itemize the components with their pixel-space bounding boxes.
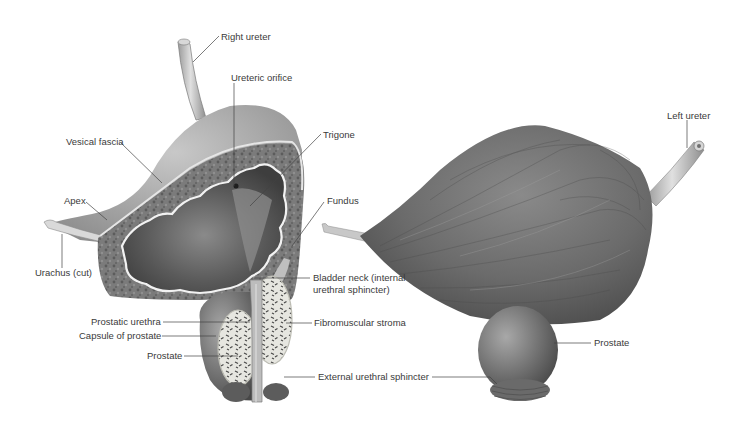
label-right-ureter: Right ureter	[221, 31, 271, 43]
label-left-ureter: Left ureter	[667, 110, 710, 122]
label-external-urethral-sphincter: External urethral sphincter	[318, 371, 429, 383]
label-prostate-external: Prostate	[594, 337, 629, 349]
label-prostatic-urethra: Prostatic urethra	[91, 316, 161, 328]
sagittal-section	[44, 39, 304, 402]
label-fundus: Fundus	[327, 195, 359, 207]
anatomy-figure: Right ureter Ureteric orifice Vesical fa…	[0, 0, 747, 424]
label-urachus: Urachus (cut)	[35, 267, 92, 279]
external-view	[322, 125, 704, 401]
label-capsule-of-prostate: Capsule of prostate	[79, 330, 161, 342]
bladder-illustration	[0, 0, 747, 424]
label-bladder-neck: Bladder neck (internal urethral sphincte…	[313, 272, 413, 296]
label-trigone: Trigone	[323, 129, 355, 141]
label-vesical-fascia: Vesical fascia	[66, 136, 124, 148]
label-ureteric-orifice: Ureteric orifice	[231, 72, 292, 84]
label-prostate-section: Prostate	[147, 350, 182, 362]
label-fibromuscular-stroma: Fibromuscular stroma	[314, 317, 406, 329]
label-apex: Apex	[64, 195, 86, 207]
